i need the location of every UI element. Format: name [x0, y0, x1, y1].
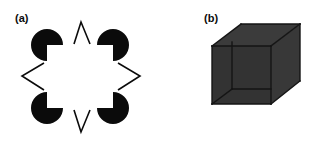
- panel-b: (b): [159, 0, 318, 147]
- chevron-left: [22, 63, 44, 90]
- pacman-top-left: [31, 29, 63, 61]
- pacman-bottom-left: [31, 92, 63, 124]
- cube-front-face: [212, 46, 271, 104]
- chevron-bottom: [74, 110, 90, 132]
- chevron-top: [74, 22, 90, 44]
- figure-root: (a) (b): [0, 0, 318, 147]
- shaded-cube-figure: [159, 0, 318, 147]
- kanizsa-star-figure: [0, 0, 159, 147]
- panel-a: (a): [0, 0, 159, 147]
- pacman-top-right: [97, 29, 129, 61]
- pacman-bottom-right: [97, 92, 129, 124]
- chevron-right: [118, 63, 140, 90]
